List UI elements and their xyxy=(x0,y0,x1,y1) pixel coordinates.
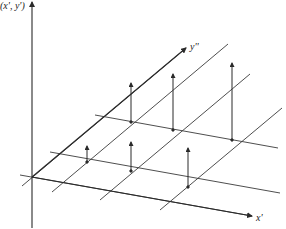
x-prime-axis xyxy=(32,177,252,216)
grid-line xyxy=(100,74,250,200)
impulse-lattice-diagram: (x', y') y'' x' xyxy=(0,0,286,229)
lattice-point xyxy=(172,129,174,131)
lattice-point xyxy=(130,121,132,123)
x-axis-label: x' xyxy=(255,212,263,223)
vertical-axis-label: (x', y') xyxy=(0,0,25,12)
grid-lines-parallel-y xyxy=(22,44,282,210)
grid-lines-parallel-x xyxy=(20,115,280,216)
lattice-point xyxy=(187,186,189,188)
y-double-prime-axis xyxy=(32,48,186,177)
grid-line xyxy=(95,115,278,148)
impulse-arrows xyxy=(86,63,233,188)
y-axis-label: y'' xyxy=(189,41,200,52)
lattice-point xyxy=(86,161,88,163)
grid-line xyxy=(160,108,282,210)
lattice-point xyxy=(231,139,233,141)
lattice-point xyxy=(130,170,132,172)
grid-line xyxy=(52,44,228,192)
